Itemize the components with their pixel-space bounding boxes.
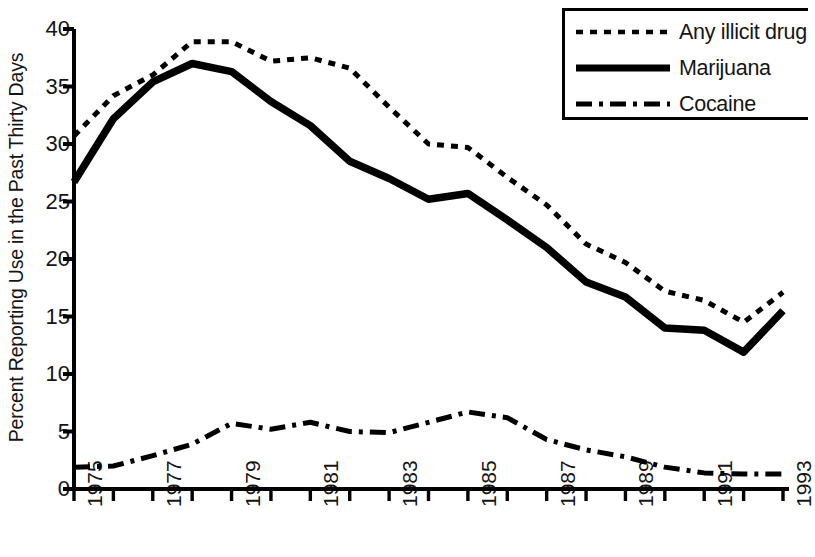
legend-item-marijuana: Marijuana: [575, 53, 771, 83]
legend-label-marijuana: Marijuana: [679, 56, 771, 81]
legend-swatch-dotted-icon: [575, 26, 671, 38]
legend-swatch-solid-icon: [575, 62, 671, 74]
legend-item-cocaine: Cocaine: [575, 89, 756, 119]
series-line-cocaine: [74, 412, 783, 474]
legend-item-any-illicit-drug: Any illicit drug: [575, 17, 807, 47]
legend: Any illicit drug Marijuana Cocaine: [562, 8, 808, 120]
legend-label-any-illicit-drug: Any illicit drug: [679, 20, 807, 45]
legend-swatch-dashdot-icon: [575, 98, 671, 110]
legend-label-cocaine: Cocaine: [679, 92, 756, 117]
